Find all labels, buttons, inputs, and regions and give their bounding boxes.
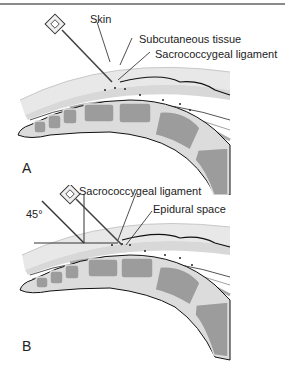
label-skin: Skin (90, 14, 111, 25)
label-subcutaneous-tissue: Subcutaneous tissue (139, 34, 241, 45)
panel-a: Skin Subcutaneous tissue Sacrococcygeal … (0, 0, 285, 195)
label-sacrococcygeal-ligament-b: Sacrococcygeal ligament (79, 186, 201, 197)
panel-b: Sacrococcygeal ligament Epidural space 4… (0, 185, 285, 387)
label-angle-45: 45° (26, 209, 43, 220)
sacrum-illustration-a (0, 0, 285, 195)
panel-letter-b: B (22, 339, 31, 353)
sacrum-illustration-b (0, 185, 285, 387)
label-epidural-space: Epidural space (153, 204, 226, 215)
label-sacrococcygeal-ligament-a: Sacrococcygeal ligament (155, 49, 277, 60)
panel-letter-a: A (22, 161, 31, 175)
